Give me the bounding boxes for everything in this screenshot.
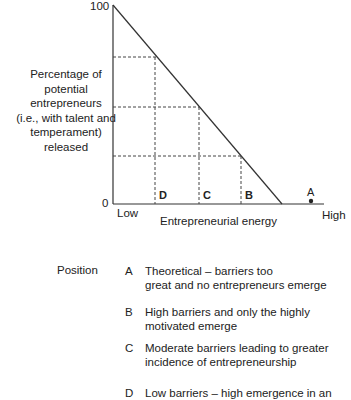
legend-line: motivated emerge: [145, 319, 345, 333]
y-tick-100: 100: [90, 0, 109, 12]
marker-c: C: [203, 189, 211, 201]
legend-line: Low barriers – high emergence in an: [145, 386, 345, 400]
x-tick-high: High: [322, 209, 346, 221]
legend-line: great and no entrepreneurs emerge: [145, 278, 345, 292]
y-title-line: entrepreneurs: [4, 96, 128, 111]
legend-title: Position: [57, 264, 98, 276]
legend-key: D: [125, 386, 145, 400]
legend-key: B: [125, 305, 145, 333]
y-title-line: released: [4, 140, 128, 155]
marker-d: D: [159, 189, 167, 201]
x-axis-title: Entrepreneurial energy: [160, 215, 277, 227]
legend-text: Low barriers – high emergence in an: [145, 386, 345, 400]
legend-key: A: [125, 264, 145, 292]
legend-item-d: D Low barriers – high emergence in an: [125, 386, 345, 400]
y-axis-title: Percentage of potential entrepreneurs (i…: [4, 67, 128, 154]
y-title-line: Percentage of: [4, 67, 128, 82]
y-title-line: (i.e., with talent and: [4, 111, 128, 126]
x-tick-low: Low: [117, 207, 138, 219]
release-line: [113, 5, 282, 204]
y-title-line: potential: [4, 82, 128, 97]
marker-a: A: [307, 186, 314, 198]
y-tick-0: 0: [102, 197, 108, 209]
marker-b: B: [245, 189, 253, 201]
legend-text: High barriers and only the highly motiva…: [145, 305, 345, 333]
legend-line: Moderate barriers leading to greater: [145, 341, 345, 355]
legend-item-b: B High barriers and only the highly moti…: [125, 305, 345, 333]
legend-text: Theoretical – barriers too great and no …: [145, 264, 345, 292]
legend-item-a: A Theoretical – barriers too great and n…: [125, 264, 345, 292]
point-a: [309, 199, 313, 203]
legend-line: incidence of entrepreneurship: [145, 355, 345, 369]
legend-line: High barriers and only the highly: [145, 305, 345, 319]
legend-text: Moderate barriers leading to greater inc…: [145, 341, 345, 369]
legend-item-c: C Moderate barriers leading to greater i…: [125, 341, 345, 369]
legend-line: Theoretical – barriers too: [145, 264, 345, 278]
y-title-line: temperament): [4, 125, 128, 140]
legend-key: C: [125, 341, 145, 369]
